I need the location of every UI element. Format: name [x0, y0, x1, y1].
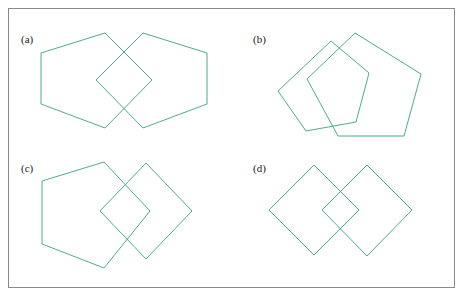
panel-c-pentagon [42, 162, 150, 268]
panel-b: (b) [253, 33, 421, 136]
panel-a: (a) [21, 33, 207, 128]
panel-label-c: (c) [21, 162, 34, 175]
panel-d: (d) [253, 162, 412, 256]
panel-label-d: (d) [253, 162, 266, 175]
panel-c-diamond-square [100, 163, 192, 259]
panel-b-right-pentagon [307, 33, 421, 136]
panel-b-left-pentagon-rotated [278, 41, 369, 131]
panel-d-right-diamond [322, 165, 412, 256]
panel-label-b: (b) [253, 33, 266, 46]
panel-label-a: (a) [21, 33, 34, 46]
panel-d-left-diamond [269, 165, 359, 255]
figure-root: (a)(b)(c)(d) [0, 0, 465, 298]
panel-c: (c) [21, 162, 192, 268]
figure-canvas: (a)(b)(c)(d) [0, 0, 465, 298]
